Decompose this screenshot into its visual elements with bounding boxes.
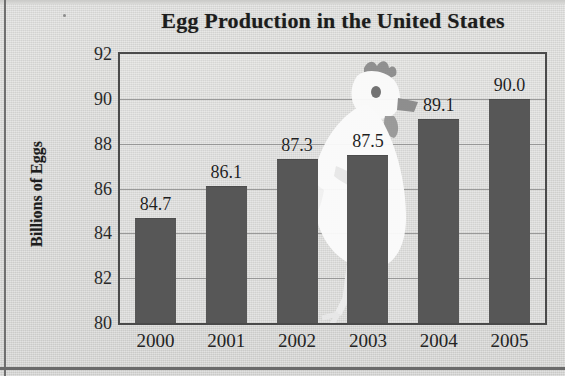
x-tick-label: 2005 <box>491 330 529 352</box>
y-axis-tick-labels: 92908886848280 <box>52 52 112 325</box>
bar <box>347 155 388 324</box>
x-tick-label: 2001 <box>207 330 245 352</box>
y-tick-label: 88 <box>52 133 112 154</box>
page-top-edge <box>0 0 565 4</box>
bar-value-label: 86.1 <box>211 162 243 183</box>
bar-value-label: 84.7 <box>140 194 172 215</box>
y-axis-label: Billions of Eggs <box>28 79 46 309</box>
y-tick-label: 90 <box>52 88 112 109</box>
bar <box>206 186 247 324</box>
bar <box>489 99 530 324</box>
bar-value-label: 87.5 <box>352 131 384 152</box>
bar-value-label: 90.0 <box>494 75 526 96</box>
x-axis-tick-labels: 200020012002200320042005 <box>118 330 547 360</box>
x-tick-label: 2002 <box>278 330 316 352</box>
bar <box>418 119 459 324</box>
bar-value-label: 89.1 <box>423 95 455 116</box>
scan-speck <box>63 14 66 17</box>
y-tick-label: 86 <box>52 178 112 199</box>
y-tick-label: 82 <box>52 268 112 289</box>
y-tick-label: 92 <box>52 44 112 65</box>
page-left-border <box>4 0 6 376</box>
x-tick-label: 2004 <box>420 330 458 352</box>
plot-area: 84.786.187.387.589.190.0 <box>118 52 547 325</box>
bar <box>135 218 176 324</box>
y-tick-label: 84 <box>52 223 112 244</box>
chart-page: Egg Production in the United States Bill… <box>0 0 565 376</box>
bar-value-label: 87.3 <box>281 135 313 156</box>
bar <box>277 159 318 324</box>
bar-series: 84.786.187.387.589.190.0 <box>120 54 545 323</box>
x-tick-label: 2000 <box>136 330 174 352</box>
y-tick-label: 80 <box>52 313 112 334</box>
chart-title: Egg Production in the United States <box>118 8 548 34</box>
page-bottom-border <box>0 367 565 370</box>
x-tick-label: 2003 <box>349 330 387 352</box>
